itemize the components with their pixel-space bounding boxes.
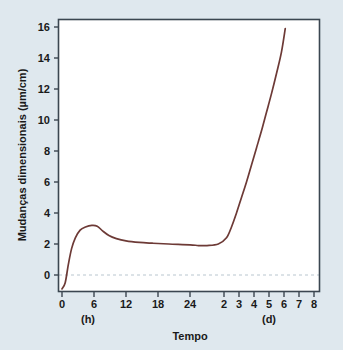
x-tick-label-hours: 6: [91, 298, 97, 310]
figure-container: 0246810121416 061218242345678 Mudanças d…: [0, 0, 343, 350]
y-tick-label: 4: [44, 207, 51, 219]
x-tick-label-days: 6: [281, 298, 287, 310]
x-tick-label-days: 5: [266, 298, 272, 310]
y-tick-label: 2: [44, 238, 50, 250]
y-tick-label: 10: [38, 114, 50, 126]
chart-svg: 0246810121416 061218242345678 Mudanças d…: [0, 0, 343, 350]
y-tick-label: 16: [38, 21, 50, 33]
y-axis-title: Mudanças dimensionais (µm/cm): [16, 68, 28, 241]
y-tick-label: 14: [38, 52, 51, 64]
x-tick-label-days: 4: [251, 298, 258, 310]
x-axis-unit-hours-label: (h): [81, 313, 95, 325]
x-tick-label-hours: 24: [184, 298, 197, 310]
x-tick-label-days: 2: [221, 298, 227, 310]
x-tick-label-days: 3: [236, 298, 242, 310]
x-tick-label-hours: 0: [59, 298, 65, 310]
y-tick-label: 0: [44, 269, 50, 281]
x-axis-title: Tempo: [172, 330, 208, 342]
x-tick-label-days: 7: [296, 298, 302, 310]
x-tick-label-hours: 12: [120, 298, 132, 310]
x-axis-unit-days-label: (d): [262, 313, 276, 325]
y-tick-label: 12: [38, 83, 50, 95]
y-tick-label: 6: [44, 176, 50, 188]
x-tick-label-days: 8: [311, 298, 317, 310]
y-tick-label: 8: [44, 145, 50, 157]
x-tick-label-hours: 18: [152, 298, 164, 310]
